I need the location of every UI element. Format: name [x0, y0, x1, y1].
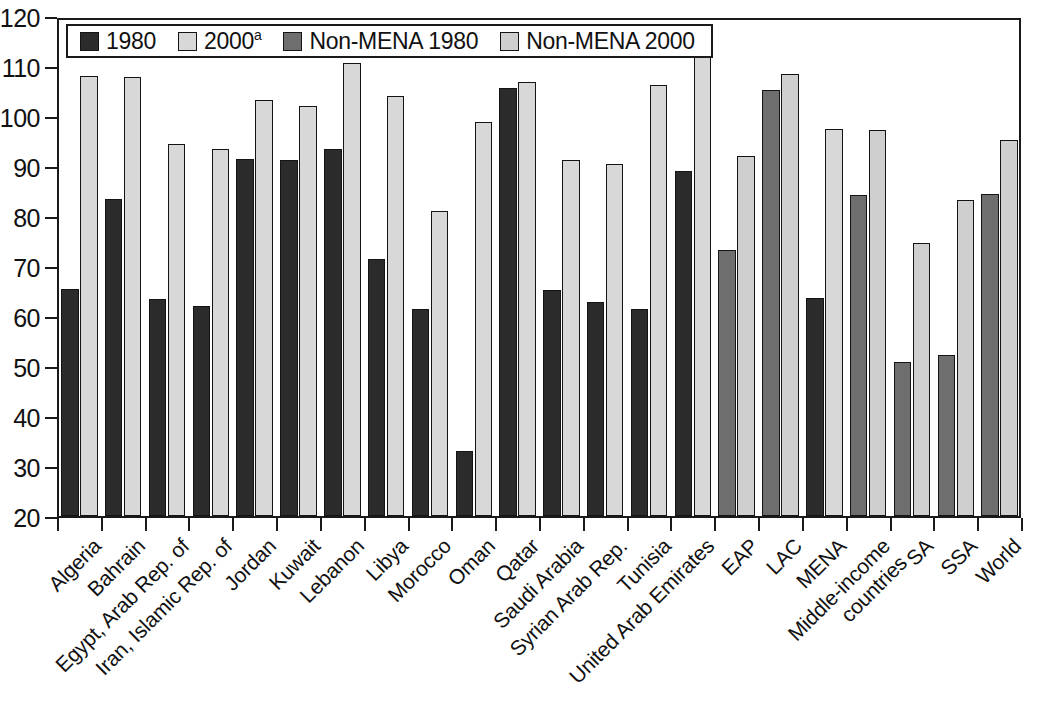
plot-area: [57, 18, 1021, 518]
y-axis-tick-mark: [45, 317, 57, 319]
legend-swatch-icon: [500, 32, 519, 51]
y-axis-tick-label: 70: [13, 254, 40, 283]
bar: [825, 129, 843, 517]
x-axis-tick-mark: [890, 518, 892, 531]
x-axis-tick-mark: [145, 518, 147, 531]
bar: [168, 144, 186, 516]
y-axis-tick-label: 20: [13, 504, 40, 533]
bar: [543, 290, 561, 516]
x-axis-tick-mark: [495, 518, 497, 531]
x-axis-tick-mark: [188, 518, 190, 531]
bar: [193, 306, 211, 516]
chart-legend: 19802000aNon-MENA 1980Non-MENA 2000: [66, 24, 713, 58]
x-axis-tick-mark: [408, 518, 410, 531]
bar: [718, 250, 736, 517]
x-axis-tick-mark: [977, 518, 979, 531]
bar: [475, 122, 493, 517]
legend-swatch-icon: [80, 32, 99, 51]
bar: [562, 160, 580, 516]
x-axis-tick-mark: [583, 518, 585, 531]
x-axis-tick-mark: [1021, 518, 1023, 531]
y-axis-tick-mark: [45, 117, 57, 119]
x-axis-category-label-line: World: [971, 534, 1025, 588]
bar: [280, 160, 298, 516]
bar: [105, 199, 123, 517]
y-axis-tick-label: 110: [2, 54, 40, 83]
bar: [762, 90, 780, 516]
x-axis-tick-mark: [670, 518, 672, 531]
y-axis-tick-label: 90: [13, 154, 40, 183]
legend-item: 2000a: [178, 27, 261, 55]
bar: [981, 194, 999, 516]
x-axis-tick-mark: [276, 518, 278, 531]
bar: [431, 211, 449, 517]
legend-label: Non-MENA 1980: [309, 28, 478, 55]
legend-swatch-icon: [283, 32, 302, 51]
x-axis-tick-mark: [627, 518, 629, 531]
bar: [957, 200, 975, 517]
x-axis-category-label: World: [971, 534, 1026, 589]
bar: [850, 195, 868, 516]
y-axis: 1201101009080706050403020: [0, 0, 57, 540]
bar: [324, 149, 342, 516]
bar: [80, 76, 98, 516]
legend-label: 2000a: [204, 27, 261, 55]
bar: [124, 77, 142, 516]
bar: [368, 259, 386, 516]
x-axis-tick-mark: [320, 518, 322, 531]
bar-chart-figure: 1201101009080706050403020 AlgeriaBahrain…: [0, 0, 1041, 707]
bar: [387, 96, 405, 516]
x-axis-tick-mark: [364, 518, 366, 531]
x-axis-tick-mark: [451, 518, 453, 531]
x-axis-tick-mark: [232, 518, 234, 531]
bar: [631, 309, 649, 517]
bar: [894, 362, 912, 516]
bar: [255, 100, 273, 517]
x-axis-tick-mark: [57, 518, 59, 531]
bar: [781, 74, 799, 517]
bar: [499, 88, 517, 516]
bar: [650, 85, 668, 517]
y-axis-tick-label: 50: [13, 354, 40, 383]
x-axis-category-label: EAP: [717, 534, 763, 580]
y-axis-tick-label: 30: [13, 454, 40, 483]
bar: [587, 302, 605, 516]
y-axis-tick-mark: [45, 67, 57, 69]
x-axis-tick-mark: [802, 518, 804, 531]
bar: [869, 130, 887, 516]
bar: [299, 106, 317, 516]
bar: [518, 82, 536, 517]
x-axis-tick-mark: [758, 518, 760, 531]
x-axis-tick-mark: [846, 518, 848, 531]
x-axis-tick-mark: [933, 518, 935, 531]
legend-label: Non-MENA 2000: [526, 28, 695, 55]
y-axis-tick-mark: [45, 167, 57, 169]
bar: [606, 164, 624, 517]
y-axis-tick-mark: [45, 417, 57, 419]
y-axis-tick-label: 100: [0, 104, 40, 133]
x-axis-tick-mark: [714, 518, 716, 531]
bar: [456, 451, 474, 517]
bar: [806, 298, 824, 517]
y-axis-tick-label: 60: [13, 304, 40, 333]
x-axis-tick-mark: [539, 518, 541, 531]
y-axis-tick-mark: [45, 367, 57, 369]
x-axis-category-label-line: EAP: [717, 534, 763, 580]
y-axis-tick-mark: [45, 17, 57, 19]
y-axis-tick-mark: [45, 217, 57, 219]
legend-item: Non-MENA 1980: [283, 28, 478, 55]
bar: [149, 299, 167, 517]
legend-swatch-icon: [178, 32, 197, 51]
y-axis-tick-mark: [45, 267, 57, 269]
bar: [412, 309, 430, 516]
x-axis-category-label-line: Oman: [443, 534, 499, 590]
y-axis-tick-mark: [45, 467, 57, 469]
bar: [938, 355, 956, 516]
y-axis-tick-label: 120: [0, 4, 40, 33]
bar: [61, 289, 79, 516]
bar: [236, 159, 254, 517]
legend-item: Non-MENA 2000: [500, 28, 695, 55]
legend-label-superscript: a: [254, 27, 262, 43]
y-axis-tick-label: 80: [13, 204, 40, 233]
y-axis-tick-label: 40: [13, 404, 40, 433]
